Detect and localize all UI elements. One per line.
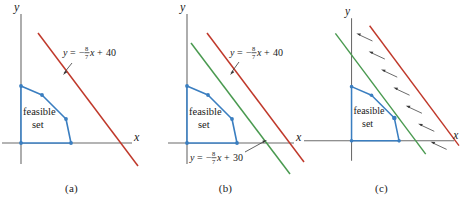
y-axis-label: y [179, 0, 186, 14]
equation-objective-40: y = − 8 7 x + 40 [229, 45, 283, 60]
panel-a: x y feasible set y = − 8 7 x + 40 (a) [0, 0, 155, 198]
equation-objective-30: y = − 8 7 x + 30 [189, 150, 243, 165]
equation-equals: = [197, 152, 203, 163]
panel-c: x y feasible set (c) [304, 0, 459, 198]
x-axis-label: x [295, 130, 302, 144]
feasible-set-label-line1: feasible [23, 106, 56, 117]
linear-programming-figure: x y feasible set y = − 8 7 x + 40 (a) [0, 0, 467, 198]
vertex-point [19, 84, 23, 88]
equation-denominator: 7 [252, 53, 256, 60]
vertex-point [350, 139, 354, 143]
equation-numerator: 8 [212, 150, 215, 157]
vertex-point [397, 139, 401, 143]
vertex-point [350, 85, 354, 89]
vertex-point [235, 141, 239, 145]
equation-intercept: 40 [106, 47, 116, 58]
panel-caption-c: (c) [304, 182, 459, 194]
direction-arrow [406, 106, 422, 114]
feasible-set-label-line2: set [362, 118, 373, 129]
feasible-set-label-line2: set [198, 119, 210, 130]
vertex-point [230, 117, 234, 121]
feasible-set-label-line1: feasible [353, 105, 385, 116]
panel-caption-a: (a) [0, 182, 149, 194]
direction-arrow [356, 33, 372, 41]
vertex-point [185, 141, 189, 145]
equation-lhs: y [229, 47, 235, 58]
y-axis-label: y [13, 0, 20, 14]
equation-variable: x [216, 152, 222, 163]
vertex-point [185, 84, 189, 88]
direction-arrow [381, 70, 397, 78]
equation-plus: + [264, 47, 270, 58]
equation-plus: + [224, 152, 230, 163]
y-axis-label: y [344, 5, 351, 18]
equation-numerator: 8 [252, 45, 255, 52]
x-axis-label: x [452, 129, 458, 141]
vertex-point [206, 93, 210, 97]
vertex-point [370, 93, 374, 97]
panel-b: x y feasible set y = − 8 7 x + 40 y = − [152, 0, 307, 198]
equation-lhs: y [189, 152, 195, 163]
panel-caption-b: (b) [148, 182, 303, 194]
vertex-point [392, 116, 397, 121]
equation-variable: x [256, 47, 262, 58]
equation-equals: = [237, 47, 243, 58]
feasible-set-label-line1: feasible [189, 106, 222, 117]
vertex-point [64, 117, 68, 121]
equation-denominator: 7 [212, 158, 216, 165]
x-axis-label: x [133, 130, 140, 144]
direction-arrow [369, 51, 385, 59]
equation-numerator: 8 [85, 45, 88, 52]
direction-arrow [418, 124, 434, 132]
equation-objective-40: y = − 8 7 x + 40 [62, 45, 116, 60]
feasible-set-label-line2: set [32, 119, 44, 130]
equation-denominator: 7 [85, 53, 89, 60]
vertex-point [40, 93, 44, 97]
equation-intercept: 40 [273, 47, 283, 58]
equation-lhs: y [62, 47, 68, 58]
equation-equals: = [70, 47, 76, 58]
direction-arrow [430, 142, 446, 150]
equation-intercept: 30 [233, 152, 243, 163]
direction-arrow [393, 88, 409, 96]
equation-variable: x [89, 47, 95, 58]
equation-plus: + [97, 47, 103, 58]
vertex-point [69, 141, 73, 145]
vertex-point [19, 141, 23, 145]
